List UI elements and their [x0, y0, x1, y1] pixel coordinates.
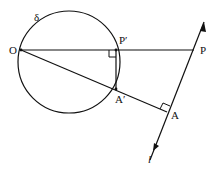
label-Aprime: A′ [115, 93, 125, 105]
label-l: l [148, 153, 151, 165]
label-A: A [171, 109, 179, 121]
right-angle-Pprime [109, 50, 116, 57]
line-l [150, 22, 204, 160]
label-Pprime: P′ [119, 34, 128, 46]
point-O [20, 49, 23, 52]
point-Aprime [115, 88, 118, 91]
point-Pprime [115, 49, 118, 52]
label-P: P [200, 44, 206, 56]
circle-delta [18, 11, 120, 113]
right-angle-A [160, 103, 170, 109]
inversion-diagram: δ O P′ P A′ A l [0, 0, 218, 169]
label-O: O [9, 44, 17, 56]
segment-OA [21, 50, 167, 112]
label-delta: δ [34, 11, 39, 23]
